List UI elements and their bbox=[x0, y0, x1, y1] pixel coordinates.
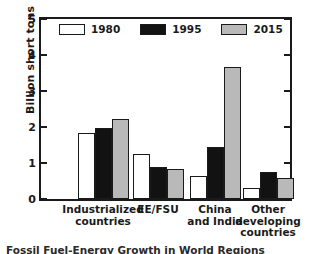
y-tick-label: 0 bbox=[28, 194, 36, 205]
bar-group bbox=[128, 19, 188, 199]
legend-entry[interactable]: 2015 bbox=[221, 24, 282, 35]
legend-swatch-1980 bbox=[59, 24, 85, 35]
y-tick-mark-left bbox=[41, 54, 47, 56]
y-tick-label: 3 bbox=[28, 86, 36, 97]
bar-1980[interactable] bbox=[78, 133, 95, 199]
plot-area: 012345 198019952015 bbox=[39, 17, 292, 201]
bar-1995[interactable] bbox=[207, 147, 224, 199]
legend-label: 1980 bbox=[91, 24, 120, 35]
y-tick-label: 1 bbox=[28, 158, 36, 169]
bar-group bbox=[73, 19, 133, 199]
bar-2015[interactable] bbox=[112, 119, 129, 199]
y-tick-mark-left bbox=[41, 126, 47, 128]
bar-group bbox=[238, 19, 298, 199]
figure-caption: Fossil Fuel-Energy Growth in World Regio… bbox=[6, 244, 298, 254]
y-tick-mark-left bbox=[41, 90, 47, 92]
plot-inner: 012345 198019952015 bbox=[41, 19, 290, 199]
legend-swatch-2015 bbox=[221, 24, 247, 35]
legend-swatch-1995 bbox=[140, 24, 166, 35]
bar-1995[interactable] bbox=[260, 172, 277, 199]
y-tick-mark-left bbox=[41, 162, 47, 164]
y-tick-label: 4 bbox=[28, 50, 36, 61]
bar-group bbox=[185, 19, 245, 199]
legend-entry[interactable]: 1980 bbox=[59, 24, 120, 35]
legend-entry[interactable]: 1995 bbox=[140, 24, 201, 35]
y-tick-mark-left bbox=[41, 18, 47, 20]
bar-1980[interactable] bbox=[190, 176, 207, 199]
x-axis-label: Other developing countries bbox=[223, 204, 313, 239]
bar-1995[interactable] bbox=[150, 167, 167, 199]
y-tick-label: 5 bbox=[28, 14, 36, 25]
y-tick-label: 2 bbox=[28, 122, 36, 133]
bar-2015[interactable] bbox=[277, 178, 294, 199]
chart-legend: 198019952015 bbox=[59, 24, 283, 35]
bar-1980[interactable] bbox=[133, 154, 150, 199]
y-tick-mark-left bbox=[41, 198, 47, 200]
legend-label: 2015 bbox=[253, 24, 282, 35]
legend-label: 1995 bbox=[172, 24, 201, 35]
bar-1995[interactable] bbox=[95, 128, 112, 199]
bar-1980[interactable] bbox=[243, 188, 260, 199]
bar-2015[interactable] bbox=[167, 169, 184, 199]
